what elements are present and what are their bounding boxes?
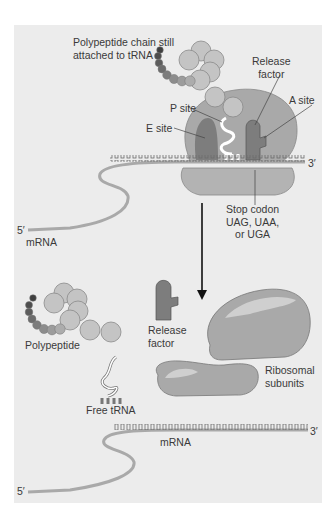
- label-line: factor: [148, 337, 187, 350]
- label-line: or UGA: [226, 228, 279, 241]
- label-mrna-top: mRNA: [26, 236, 57, 249]
- label-5-prime-top: 5′: [17, 224, 25, 237]
- free-polypeptide: [25, 283, 121, 342]
- ribosome-small-subunit: [181, 168, 294, 195]
- label-line: UAG, UAA,: [226, 216, 279, 229]
- label-polypeptide: Polypeptide: [25, 339, 80, 352]
- label-line: Release: [148, 324, 187, 337]
- label-a-site: A site: [289, 94, 315, 107]
- label-line: Polypeptide chain still: [73, 36, 174, 49]
- label-release-factor-bottom: Release factor: [148, 324, 187, 349]
- label-3-prime-bottom: 3′: [310, 425, 318, 438]
- small-ribosomal-subunit: [156, 361, 258, 396]
- label-p-site: P site: [170, 102, 196, 115]
- label-mrna-bottom: mRNA: [160, 436, 191, 449]
- label-ribosomal-subunits: Ribosomal subunits: [265, 364, 315, 389]
- label-line: Stop codon: [226, 203, 279, 216]
- process-arrow-icon: [197, 203, 207, 300]
- mrna-strand-bottom: [28, 423, 308, 492]
- label-stop-codon: Stop codon UAG, UAA, or UGA: [226, 203, 279, 241]
- label-e-site: E site: [146, 122, 172, 135]
- label-line: subunits: [265, 377, 315, 390]
- label-line: Release: [252, 55, 291, 68]
- label-release-factor-top: Release factor: [252, 55, 291, 80]
- label-line: factor: [252, 68, 291, 81]
- label-free-trna: Free tRNA: [86, 404, 136, 417]
- label-polypeptide-chain-attached: Polypeptide chain still attached to tRNA: [73, 36, 174, 61]
- label-3-prime-top: 3′: [308, 157, 316, 170]
- label-line: Ribosomal: [265, 364, 315, 377]
- label-line: attached to tRNA: [73, 49, 174, 62]
- release-factor-free-icon: [156, 280, 178, 320]
- label-5-prime-bottom: 5′: [17, 485, 25, 498]
